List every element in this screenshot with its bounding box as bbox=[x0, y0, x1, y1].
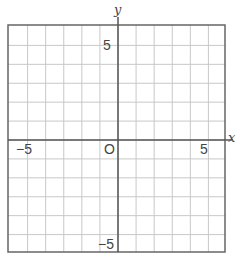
y-tick-label-neg5: −5 bbox=[98, 237, 114, 251]
x-tick-label-5: 5 bbox=[200, 142, 208, 156]
x-axis-label: x bbox=[228, 131, 235, 145]
grid-lines bbox=[8, 25, 225, 252]
x-tick-label-neg5: −5 bbox=[16, 142, 32, 156]
y-axis-label: y bbox=[114, 3, 121, 17]
origin-label: O bbox=[104, 142, 115, 156]
coordinate-grid bbox=[0, 0, 240, 267]
y-tick-label-5: 5 bbox=[103, 38, 111, 52]
plot-border bbox=[8, 25, 225, 252]
